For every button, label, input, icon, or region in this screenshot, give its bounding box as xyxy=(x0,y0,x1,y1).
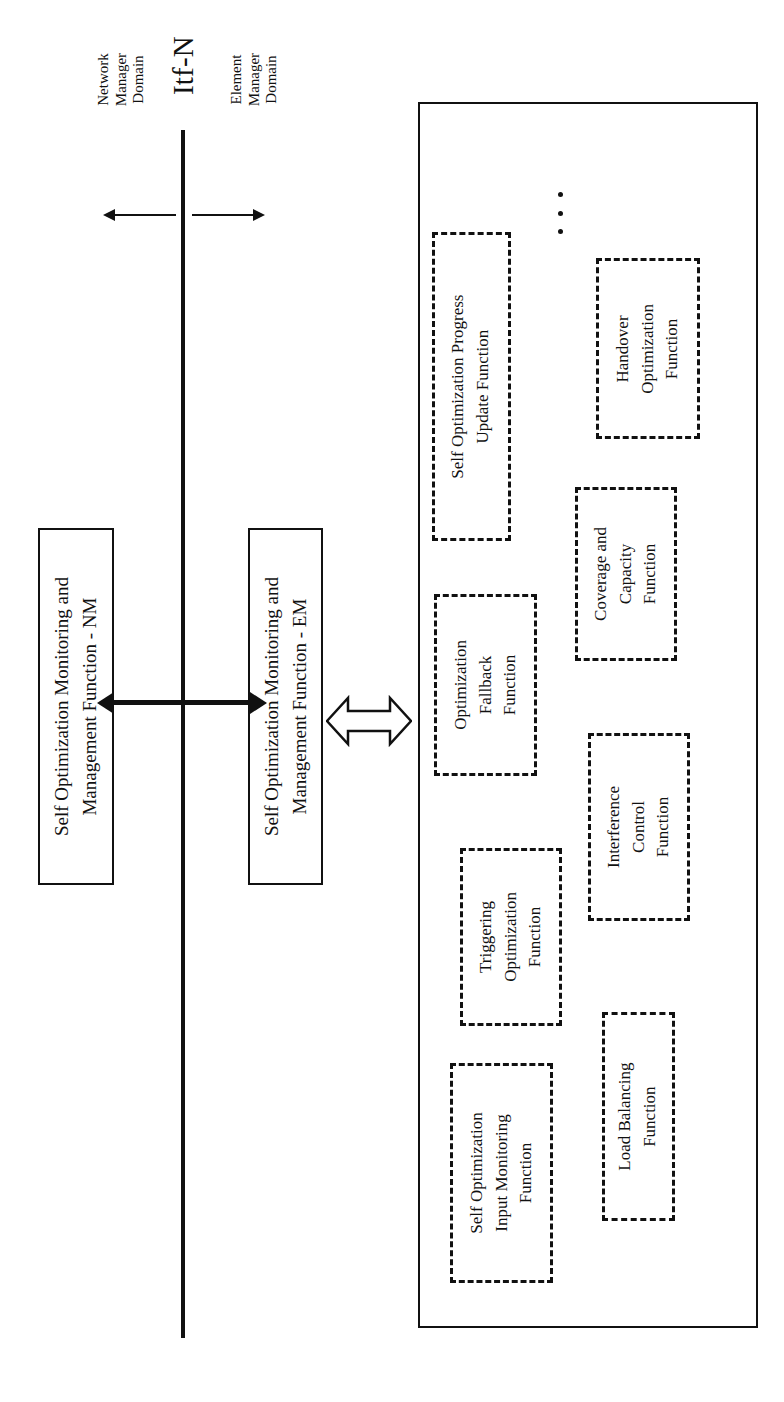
fn-line-1: Self Optimization xyxy=(465,1112,490,1233)
itf-n-reference-line xyxy=(181,130,185,1338)
nm-domain-line-2: Manager xyxy=(113,53,131,106)
fn-line-3: Function xyxy=(660,304,685,394)
fn-line-3: Function xyxy=(498,640,523,730)
fn-line-2: Control xyxy=(627,786,652,868)
element-manager-domain-label: Element Manager Domain xyxy=(170,45,340,115)
ellipsis-dot-1 xyxy=(558,192,563,197)
handover-optimization-function-box: Handover Optimization Function xyxy=(596,258,700,439)
load-balancing-function-box: Load Balancing Function xyxy=(602,1012,675,1221)
em-to-functions-double-arrow-icon xyxy=(326,688,412,754)
nm-box-line-1: Self Optimization Monitoring and xyxy=(48,577,76,836)
fn-line-3: Function xyxy=(514,1112,539,1233)
fn-line-1: Triggering xyxy=(474,892,499,982)
ellipsis-icon xyxy=(556,192,564,234)
nm-em-bidirectional-arrow-icon xyxy=(113,700,251,705)
coverage-and-capacity-function-box: Coverage and Capacity Function xyxy=(575,487,677,661)
fn-line-1: Optimization xyxy=(449,640,474,730)
arrow-head-right-icon xyxy=(253,209,265,221)
em-domain-line-3: Domain xyxy=(264,53,282,106)
fn-line-2: Optimization xyxy=(636,304,661,394)
fn-line-2: Capacity xyxy=(614,527,639,621)
fn-line-1: Self Optimization Progress xyxy=(447,294,472,478)
fn-line-1: Interference xyxy=(602,786,627,868)
interference-control-function-box: Interference Control Function xyxy=(588,733,690,921)
ellipsis-dot-3 xyxy=(558,229,563,234)
fn-line-1: Handover xyxy=(611,304,636,394)
fn-line-1: Coverage and xyxy=(589,527,614,621)
fn-line-3: Function xyxy=(523,892,548,982)
fn-line-3: Function xyxy=(651,786,676,868)
triggering-optimization-function-box: Triggering Optimization Function xyxy=(460,848,562,1026)
element-manager-domain-arrow-icon xyxy=(192,214,254,216)
self-optimization-input-monitoring-function-box: Self Optimization Input Monitoring Funct… xyxy=(450,1063,553,1283)
fn-line-1: Load Balancing xyxy=(614,1062,639,1170)
network-manager-domain-arrow-icon xyxy=(114,214,176,216)
fn-line-2: Fallback xyxy=(473,640,498,730)
nm-domain-line-3: Domain xyxy=(131,53,149,106)
fn-line-2: Function xyxy=(639,1062,664,1170)
em-box-line-2: Management Function - EM xyxy=(286,577,314,836)
ellipsis-dot-2 xyxy=(558,211,563,216)
fn-line-2: Input Monitoring xyxy=(489,1112,514,1233)
em-domain-line-1: Element xyxy=(228,53,246,106)
fn-line-2: Optimization xyxy=(499,892,524,982)
self-optimization-progress-update-function-box: Self Optimization Progress Update Functi… xyxy=(432,232,511,541)
arrow-head-left-icon xyxy=(97,692,114,714)
fn-line-3: Function xyxy=(638,527,663,621)
em-domain-line-2: Manager xyxy=(246,53,264,106)
arrow-head-right-icon xyxy=(250,692,267,714)
arrow-head-left-icon xyxy=(103,209,115,221)
nm-domain-line-1: Network xyxy=(95,53,113,106)
fn-line-2: Update Function xyxy=(472,294,497,478)
optimization-fallback-function-box: Optimization Fallback Function xyxy=(434,594,537,776)
